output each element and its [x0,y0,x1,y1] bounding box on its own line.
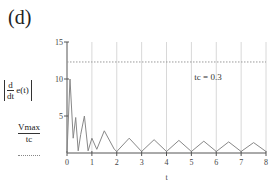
x-tick-label: 6 [214,158,218,167]
y-tick-label: 10 [55,75,63,84]
x-tick-label: 1 [90,158,94,167]
x-tick-label: 8 [264,158,268,167]
x-tick-label: 2 [115,158,119,167]
y-tick-label: 15 [55,38,63,47]
tc-annotation: tc = 0.3 [194,72,222,82]
x-tick-label: 3 [140,158,144,167]
x-tick-label: 5 [189,158,193,167]
y-tick-label: 5 [59,112,63,121]
x-tick-label: 7 [239,158,243,167]
x-tick-label: 4 [165,158,169,167]
x-tick-label: 0 [65,158,69,167]
x-axis-label: t [165,173,168,182]
chart-plot: 51015012345678ttc = 0.3 [0,0,279,193]
